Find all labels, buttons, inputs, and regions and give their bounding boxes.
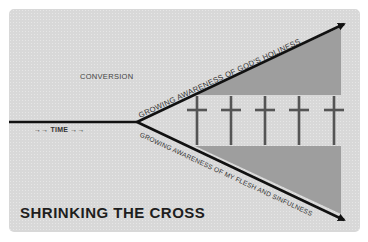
sinfulness-shaded-region xyxy=(195,146,341,214)
diagram-title: SHRINKING THE CROSS xyxy=(20,204,205,221)
cross-icon xyxy=(187,96,207,145)
cross-icon xyxy=(255,96,275,145)
cross-icon xyxy=(324,96,344,145)
crosses-group xyxy=(187,96,344,145)
time-label: →→ TIME →→ xyxy=(34,126,85,133)
conversion-label: CONVERSION xyxy=(80,72,133,81)
cross-icon xyxy=(289,96,309,145)
cross-icon xyxy=(221,96,241,145)
